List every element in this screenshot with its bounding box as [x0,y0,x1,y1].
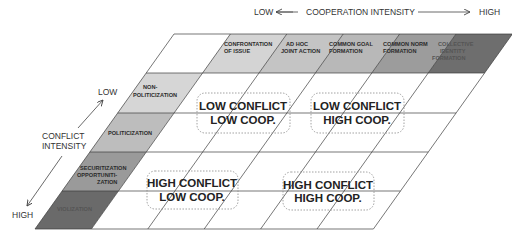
svg-text:HIGH CONFLICT: HIGH CONFLICT [283,179,373,191]
cooperation-axis-title: COOPERATION INTENSITY [306,7,415,17]
cooperation-conflict-matrix-diagram: LOW COOPERATION INTENSITY HIGH LOW CONFL… [0,0,512,242]
cooperation-axis-low-label: LOW [254,7,273,17]
svg-text:HIGH COOP.: HIGH COOP. [323,114,391,126]
conflict-axis-title-line1: CONFLICT [42,131,85,141]
svg-text:LOW COOP.: LOW COOP. [159,191,225,203]
svg-text:LOW COOP.: LOW COOP. [210,114,276,126]
svg-text:FORMATION: FORMATION [383,48,416,54]
svg-text:OPPORTUNITI-: OPPORTUNITI- [77,172,117,178]
conflict-axis-high-label: HIGH [12,210,33,220]
cooperation-axis: LOW COOPERATION INTENSITY HIGH [254,7,500,17]
arrow-up-right-icon [78,100,103,128]
svg-text:LOW CONFLICT: LOW CONFLICT [313,100,401,112]
svg-text:POLITICIZATION: POLITICIZATION [133,92,177,98]
svg-text:FORMATION: FORMATION [432,55,465,61]
svg-text:FORMATION: FORMATION [329,48,362,54]
svg-text:SECURITIZATION: SECURITIZATION [80,165,127,171]
svg-text:POLITICIZATION: POLITICIZATION [108,130,152,136]
svg-text:ZATION: ZATION [97,179,117,185]
svg-text:LOW CONFLICT: LOW CONFLICT [199,100,287,112]
svg-text:COMMON GOAL: COMMON GOAL [329,41,373,47]
svg-text:HIGH CONFLICT: HIGH CONFLICT [147,177,237,189]
svg-text:IDENTITY: IDENTITY [440,48,466,54]
cooperation-axis-high-label: HIGH [479,7,500,17]
svg-text:HIGH COOP.: HIGH COOP. [294,192,362,204]
svg-text:VIOLIZATION: VIOLIZATION [57,206,92,212]
conflict-axis-title-line2: INTENSITY [42,141,87,151]
svg-text:CONFRONTATION: CONFRONTATION [224,41,272,47]
svg-text:JOINT ACTION: JOINT ACTION [281,48,320,54]
svg-text:COLLECTIVE: COLLECTIVE [438,41,474,47]
conflict-axis-low-label: LOW [98,87,117,97]
svg-text:NON-: NON- [143,84,157,90]
svg-text:OF ISSUE: OF ISSUE [224,48,250,54]
svg-text:AD HOC: AD HOC [286,41,308,47]
conflict-level-politicization: POLITICIZATION [108,130,152,136]
svg-text:COMMON NORM: COMMON NORM [383,41,428,47]
conflict-level-violization: VIOLIZATION [57,206,92,212]
